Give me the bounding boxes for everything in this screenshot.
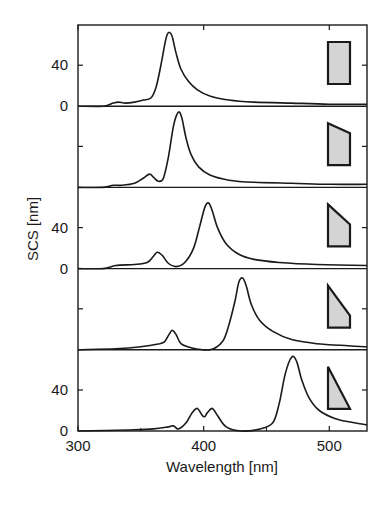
y-tick-label: 40	[51, 56, 68, 73]
y-axis-ticks: 400400400	[51, 56, 367, 439]
curves-group	[78, 32, 367, 431]
x-axis-title: Wavelength [nm]	[166, 458, 278, 475]
y-tick-label: 0	[60, 260, 68, 277]
y-tick-label: 40	[51, 219, 68, 236]
x-tick-label: 400	[191, 437, 216, 454]
outer-frame	[78, 25, 367, 431]
x-tick-label: 500	[317, 437, 342, 454]
spectrum-curve-slanted-top	[78, 112, 367, 188]
particle-shape-icon-triangle	[328, 367, 350, 409]
y-tick-label: 0	[60, 422, 68, 439]
y-tick-label: 0	[60, 97, 68, 114]
scs-stacked-spectra-chart: 300400500 400400400 Wavelength [nm] SCS …	[0, 0, 387, 508]
spectrum-curve-rectangle	[78, 32, 367, 106]
particle-shape-icon-trapezoid-medium	[328, 204, 350, 246]
y-axis-title: SCS [nm]	[24, 197, 41, 261]
spectrum-curve-steeper-slant	[78, 203, 367, 269]
x-tick-label: 300	[65, 437, 90, 454]
particle-shape-icon-trapezoid-slight	[328, 123, 350, 165]
plot-frame	[78, 25, 367, 431]
shape-icons-group	[328, 42, 350, 409]
particle-shape-icon-trapezoid-steep	[328, 286, 350, 328]
spectrum-curve-triangle	[78, 356, 367, 431]
spectrum-curve-near-triangle	[78, 278, 367, 350]
x-axis-ticks: 300400500	[65, 25, 341, 454]
particle-shape-icon-rectangle	[328, 42, 350, 84]
y-tick-label: 40	[51, 381, 68, 398]
